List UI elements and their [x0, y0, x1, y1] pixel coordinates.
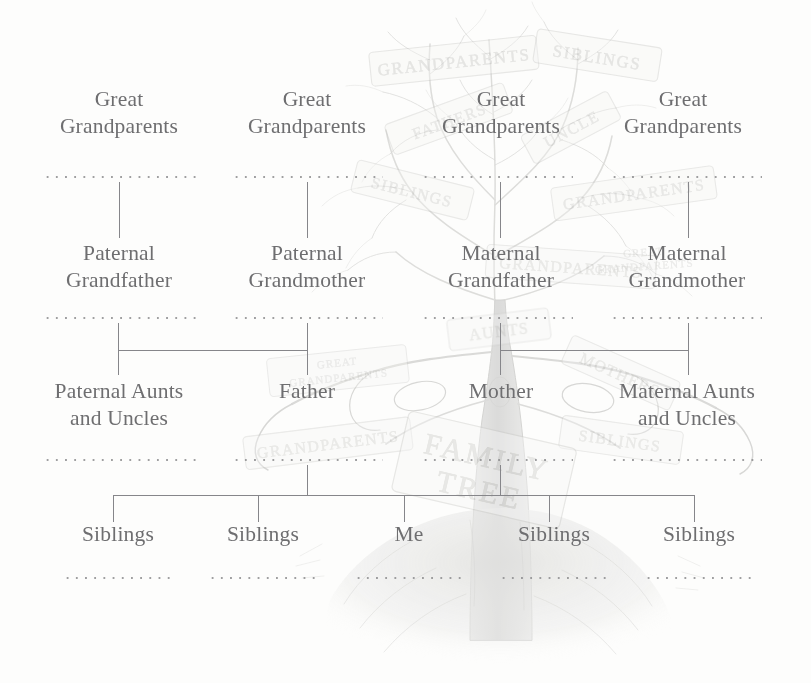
divider-rule-2a — [43, 317, 197, 319]
node-paternal-grandfather: Paternal Grandfather — [24, 240, 214, 294]
node-mother: Mother — [406, 378, 596, 405]
divider-rule-2c — [421, 317, 573, 319]
divider-rule-2b — [232, 317, 383, 319]
divider-rule-4d — [499, 577, 611, 579]
node-paternal-grandmother: Paternal Grandmother — [212, 240, 402, 294]
divider-rule-1a — [43, 176, 197, 178]
connector-ggp-to-gp-4 — [688, 182, 689, 238]
connector-ggp-to-gp-2 — [307, 182, 308, 238]
connector-father-to-children — [307, 465, 308, 496]
node-sibling-4: Siblings — [624, 521, 774, 548]
node-great-grandparents-4: Great Grandparents — [588, 86, 778, 140]
divider-rule-3c — [421, 459, 573, 461]
family-tree-diagram: Great Grandparents Great Grandparents Gr… — [0, 0, 811, 683]
divider-rule-2d — [610, 317, 762, 319]
connector-ggp-to-gp-3 — [500, 182, 501, 238]
divider-rule-4c — [354, 577, 466, 579]
connector-child-2 — [258, 495, 259, 522]
divider-rule-4e — [644, 577, 756, 579]
connector-maternal-bar — [500, 350, 689, 351]
divider-rule-4a — [63, 577, 175, 579]
divider-rule-1c — [421, 176, 573, 178]
connector-maternal-left — [500, 323, 501, 375]
connector-paternal-bar — [118, 350, 308, 351]
node-maternal-grandfather: Maternal Grandfather — [406, 240, 596, 294]
connector-paternal-left — [118, 323, 119, 375]
node-maternal-aunts-uncles: Maternal Aunts and Uncles — [592, 378, 782, 432]
connector-child-3 — [404, 495, 405, 522]
node-great-grandparents-2: Great Grandparents — [212, 86, 402, 140]
node-sibling-3: Siblings — [479, 521, 629, 548]
divider-rule-3a — [43, 459, 197, 461]
node-great-grandparents-1: Great Grandparents — [24, 86, 214, 140]
node-me: Me — [334, 521, 484, 548]
divider-rule-3d — [610, 459, 762, 461]
divider-rule-4b — [208, 577, 320, 579]
node-great-grandparents-3: Great Grandparents — [406, 86, 596, 140]
node-paternal-aunts-uncles: Paternal Aunts and Uncles — [24, 378, 214, 432]
connector-ggp-to-gp-1 — [119, 182, 120, 238]
node-sibling-2: Siblings — [188, 521, 338, 548]
connector-child-1 — [113, 495, 114, 522]
divider-rule-1d — [610, 176, 762, 178]
node-maternal-grandmother: Maternal Grandmother — [592, 240, 782, 294]
connector-mother-to-children — [500, 465, 501, 496]
divider-rule-3b — [232, 459, 383, 461]
connector-paternal-right — [307, 323, 308, 375]
connector-child-5 — [694, 495, 695, 522]
node-father: Father — [212, 378, 402, 405]
node-sibling-1: Siblings — [43, 521, 193, 548]
divider-rule-1b — [232, 176, 383, 178]
family-tree-page: GRANDPARENTS SIBLINGS FATHERS UNCLE — [0, 0, 811, 683]
connector-maternal-right — [688, 323, 689, 375]
connector-child-4 — [549, 495, 550, 522]
